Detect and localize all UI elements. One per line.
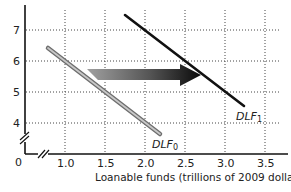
x-tick: 2.5 (177, 157, 195, 170)
origin-label: 0 (15, 156, 22, 169)
y-tick-labels: 7 6 5 4 (13, 24, 20, 130)
dlf1-label-main: DLF (236, 110, 258, 123)
chart: 7 6 5 4 0 1.0 1.5 2.0 2.5 3.0 3.5 Loanab… (0, 0, 291, 192)
grid (26, 10, 280, 153)
x-tick: 3.5 (257, 157, 275, 170)
shift-arrow-icon (87, 64, 201, 86)
y-tick: 4 (13, 117, 20, 130)
x-tick: 3.0 (217, 157, 235, 170)
x-tick: 1.0 (57, 157, 75, 170)
x-tick: 1.5 (97, 157, 115, 170)
y-tick: 7 (13, 24, 20, 37)
x-axis-title: Loanable funds (trillions of 2009 dollar… (95, 171, 291, 183)
dlf0-label: DLF0 (152, 138, 178, 152)
y-tick: 5 (13, 86, 20, 99)
x-tick-labels: 1.0 1.5 2.0 2.5 3.0 3.5 (57, 157, 275, 170)
dlf1-label: DLF1 (236, 110, 262, 124)
dlf0-label-main: DLF (152, 138, 174, 151)
x-tick: 2.0 (137, 157, 155, 170)
dlf1-label-sub: 1 (257, 115, 262, 124)
dlf0-label-sub: 0 (173, 143, 178, 152)
y-tick: 6 (13, 55, 20, 68)
